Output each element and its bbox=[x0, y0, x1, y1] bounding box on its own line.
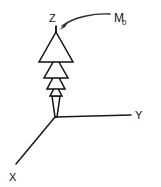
arrowhead-1 bbox=[39, 32, 73, 62]
m0-callout-leader bbox=[59, 14, 110, 30]
vector-shaft-lower bbox=[52, 96, 60, 117]
m0-subscript: 0 bbox=[122, 18, 127, 27]
z-axis-label: Z bbox=[49, 12, 56, 24]
diagram-canvas: Z Y X M 0 bbox=[0, 0, 161, 187]
x-axis-line bbox=[16, 117, 55, 164]
leader-arrow-icon bbox=[59, 21, 69, 30]
y-axis-label: Y bbox=[135, 109, 143, 121]
axes-group bbox=[16, 26, 131, 164]
x-axis-label: X bbox=[9, 171, 17, 183]
leader-curve bbox=[62, 14, 110, 26]
y-axis-line bbox=[55, 115, 131, 117]
magnetization-vector-diagram: Z Y X M 0 bbox=[0, 0, 161, 187]
magnetization-vector bbox=[39, 26, 73, 117]
